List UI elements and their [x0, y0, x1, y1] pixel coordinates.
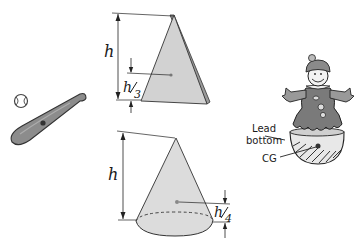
cone-cg-dot — [175, 200, 179, 204]
cone-cg-denominator: 4 — [224, 212, 232, 225]
lead-bottom-label-line2: bottom — [246, 135, 282, 146]
cone-height-label: h — [108, 165, 118, 184]
triangle-figure: h h 3 — [104, 13, 210, 113]
lead-bottom-label-line1: Lead — [252, 123, 276, 134]
cg-dot — [40, 120, 45, 125]
triangle-height-label: h — [104, 42, 114, 61]
cone-figure: h h 4 — [108, 131, 232, 238]
baseball-icon — [15, 95, 28, 108]
cg-diagram: h h 3 h h 4 — [0, 0, 362, 251]
toy-cg-dot — [316, 144, 321, 149]
triangle-cg-denominator: 3 — [134, 88, 141, 101]
roly-poly-toy-figure: Lead bottom CG — [246, 55, 354, 165]
triangle-cg-dot — [169, 73, 172, 76]
toy-cg-label: CG — [262, 153, 277, 164]
